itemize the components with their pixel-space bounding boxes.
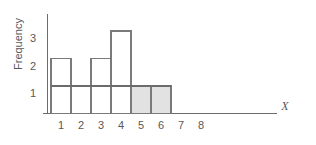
bar-4 xyxy=(111,31,131,114)
y-tick-label-1: 1 xyxy=(30,87,36,99)
x-tick-label-5: 5 xyxy=(138,119,144,131)
x-axis-title: X xyxy=(280,99,289,113)
x-tick-label-7: 7 xyxy=(178,119,184,131)
bar-2 xyxy=(71,86,91,114)
x-tick-label-3: 3 xyxy=(98,119,104,131)
x-tick-label-6: 6 xyxy=(158,119,164,131)
x-tick-label-1: 1 xyxy=(58,119,64,131)
histogram-chart: Frequency 1 2 3 1 2 3 4 5 6 7 8 X xyxy=(0,0,316,145)
x-tick-label-2: 2 xyxy=(78,119,84,131)
x-tick-label-4: 4 xyxy=(118,119,124,131)
chart-canvas: Frequency 1 2 3 1 2 3 4 5 6 7 8 X xyxy=(0,0,316,145)
y-tick-label-3: 3 xyxy=(30,32,36,44)
bar-5 xyxy=(131,86,151,114)
bar-6 xyxy=(151,86,171,114)
x-tick-label-8: 8 xyxy=(198,119,204,131)
y-tick-label-2: 2 xyxy=(30,60,36,72)
y-axis-title: Frequency xyxy=(12,18,24,70)
